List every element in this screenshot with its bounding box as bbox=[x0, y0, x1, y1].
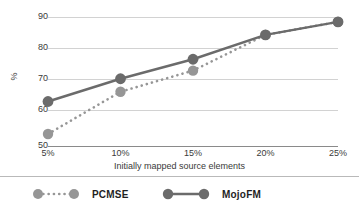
series-layer bbox=[0, 0, 359, 160]
series-pcmse-point bbox=[43, 129, 53, 139]
x-axis-tick-5: 5% bbox=[41, 149, 54, 158]
x-axis-tick-20: 20% bbox=[256, 149, 274, 158]
series-pcmse-line bbox=[48, 22, 338, 134]
x-axis-tick-15: 15% bbox=[184, 149, 202, 158]
legend-label-mojofm: MojoFM bbox=[222, 189, 261, 200]
legend-item-pcmse[interactable]: PCMSE bbox=[32, 183, 129, 205]
series-pcmse-point bbox=[188, 65, 198, 75]
legend-label-pcmse: PCMSE bbox=[92, 189, 129, 200]
series-mojofm-point bbox=[333, 16, 344, 27]
line-chart-figure: 90 80 70 60 50 % bbox=[0, 0, 359, 213]
chart-legend: PCMSE MojoFM bbox=[0, 183, 359, 207]
legend-separator bbox=[0, 176, 359, 177]
x-axis-tick-25: 25% bbox=[329, 149, 347, 158]
legend-swatch-pcmse bbox=[32, 187, 80, 201]
series-mojofm-point bbox=[260, 29, 271, 40]
plot-area-wrapper: 90 80 70 60 50 % bbox=[0, 0, 359, 160]
series-pcmse-point bbox=[115, 87, 125, 97]
legend-item-mojofm[interactable]: MojoFM bbox=[162, 183, 261, 205]
series-pcmse bbox=[43, 17, 343, 140]
series-mojofm-point bbox=[115, 73, 126, 84]
series-mojofm-point bbox=[188, 54, 199, 65]
x-axis-tick-10: 10% bbox=[111, 149, 129, 158]
legend-swatch-mojofm bbox=[162, 187, 210, 201]
x-axis-title: Initially mapped source elements bbox=[0, 162, 359, 171]
series-mojofm-point bbox=[43, 96, 54, 107]
series-mojofm bbox=[43, 16, 344, 106]
